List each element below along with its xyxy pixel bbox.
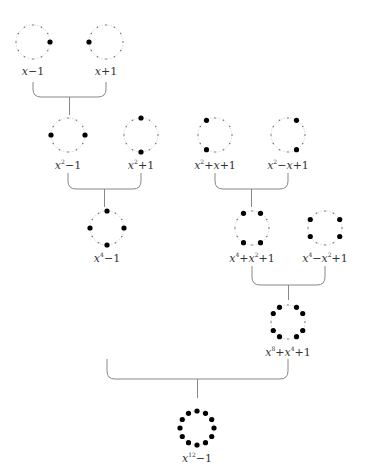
root-dot: [194, 442, 199, 447]
polynomial-label: x2−1: [55, 158, 81, 172]
root-circle-n3: [48, 117, 87, 153]
root-dot: [48, 132, 53, 137]
polynomial-label: x4−x2+1: [302, 251, 348, 265]
root-circle-n8: [234, 210, 270, 246]
root-dot: [204, 147, 209, 152]
root-circle-n6: [270, 117, 306, 153]
polynomial-label: x4−1: [94, 251, 120, 265]
root-circle-n1: [15, 24, 52, 60]
root-circle-n4: [123, 115, 159, 154]
root-dot: [258, 240, 263, 245]
root-dot: [203, 411, 208, 416]
root-dot: [271, 311, 276, 316]
root-dot: [277, 334, 282, 339]
root-dot: [204, 118, 209, 123]
root-dot: [104, 242, 109, 247]
polynomial-label: x+1: [95, 65, 117, 78]
root-dot: [209, 434, 214, 439]
polynomial-label: x−1: [22, 65, 44, 78]
bracket-connector: [33, 82, 106, 115]
root-dot: [300, 328, 305, 333]
root-dot: [211, 425, 216, 430]
root-dot: [194, 408, 199, 413]
bracket-connector: [215, 173, 288, 207]
root-dot: [241, 240, 246, 245]
root-dot: [337, 234, 342, 239]
root-dot: [180, 434, 185, 439]
root-dot: [82, 132, 87, 137]
root-circle-n9: [307, 210, 343, 246]
root-dot: [86, 39, 91, 44]
root-dot: [203, 440, 208, 445]
root-circle-n10: [270, 304, 306, 340]
root-dot: [308, 234, 313, 239]
root-dot: [87, 225, 92, 230]
polynomial-label: x12−1: [182, 451, 212, 465]
root-dot: [277, 305, 282, 310]
root-dot: [294, 334, 299, 339]
polynomial-label: x2−x+1: [267, 158, 309, 172]
polynomial-label: x4+x2+1: [229, 251, 275, 265]
root-dot: [138, 115, 143, 120]
root-dot: [294, 305, 299, 310]
root-dot: [337, 217, 342, 222]
root-dot: [138, 149, 143, 154]
root-dot: [271, 328, 276, 333]
root-dot: [258, 211, 263, 216]
root-dot: [241, 211, 246, 216]
root-circle-n7: [87, 208, 126, 247]
factorization-tree: [0, 0, 367, 467]
root-dot: [308, 217, 313, 222]
root-circle-n2: [86, 24, 123, 60]
root-dot: [180, 417, 185, 422]
root-dot: [104, 208, 109, 213]
root-circle-n5: [197, 117, 233, 153]
root-dot: [209, 417, 214, 422]
bracket-connector: [252, 266, 325, 300]
root-dot: [177, 425, 182, 430]
root-dot: [121, 225, 126, 230]
root-dot: [294, 147, 299, 152]
root-dot: [300, 311, 305, 316]
polynomial-label: x8+x4+1: [265, 345, 311, 359]
bracket-connector: [107, 359, 288, 398]
polynomial-label: x2+1: [128, 158, 154, 172]
polynomial-label: x2+x+1: [194, 158, 236, 172]
root-dot: [186, 440, 191, 445]
root-dot: [294, 118, 299, 123]
root-dot: [47, 39, 52, 44]
bracket-connector: [68, 173, 141, 207]
root-circle-n11: [177, 408, 216, 447]
root-dot: [186, 411, 191, 416]
